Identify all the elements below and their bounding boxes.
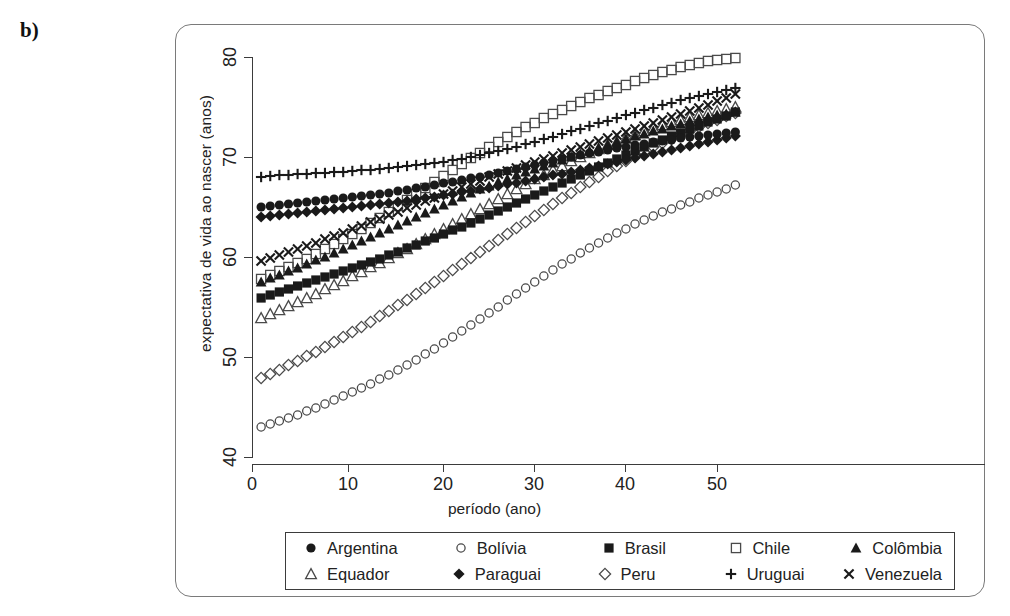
plot-area <box>252 32 985 464</box>
legend-label: Venezuela <box>865 565 942 584</box>
y-tick-label-50: 50 <box>220 347 240 367</box>
cross-icon <box>838 566 860 582</box>
x-tick-label-30: 30 <box>514 474 554 495</box>
y-tick-50 <box>244 357 252 358</box>
x-tick-30 <box>534 464 535 472</box>
legend-label: Equador <box>327 565 389 584</box>
y-tick-60 <box>244 257 252 258</box>
filled-circle-icon <box>300 540 322 556</box>
filled-diamond-icon <box>448 566 470 582</box>
x-tick-50 <box>717 464 718 472</box>
legend-entry-uruguai: Uruguai <box>720 565 838 584</box>
legend-label: Bolívia <box>477 539 527 558</box>
y-tick-80 <box>244 57 252 58</box>
y-tick-40 <box>244 457 252 458</box>
legend-label: Brasil <box>625 539 666 558</box>
legend-entry-brasil: Brasil <box>598 539 726 558</box>
x-tick-label-0: 0 <box>232 474 272 495</box>
series-bolívia <box>257 181 739 431</box>
legend-entry-argentina: Argentina <box>300 539 450 558</box>
open-triangle-icon <box>300 566 322 582</box>
open-square-icon <box>725 540 747 556</box>
open-circle-icon <box>450 540 472 556</box>
y-axis-title: expectativa de vida ao nascer (anos) <box>197 95 219 352</box>
legend-label: Argentina <box>327 539 398 558</box>
y-tick-label-80: 80 <box>220 47 240 67</box>
y-tick-label-70: 70 <box>220 147 240 167</box>
x-tick-10 <box>348 464 349 472</box>
x-tick-20 <box>443 464 444 472</box>
x-tick-label-50: 50 <box>697 474 737 495</box>
y-tick-70 <box>244 157 252 158</box>
x-tick-40 <box>625 464 626 472</box>
legend-entry-chile: Chile <box>725 539 845 558</box>
y-tick-label-60: 60 <box>220 247 240 267</box>
filled-triangle-icon <box>845 540 867 556</box>
legend-row-1: ArgentinaBolíviaBrasilChileColômbia <box>300 535 942 561</box>
legend-label: Chile <box>752 539 790 558</box>
x-axis-title: período (ano) <box>448 500 541 518</box>
legend-entry-venezuela: Venezuela <box>838 565 942 584</box>
x-tick-label-20: 20 <box>423 474 463 495</box>
legend-label: Colômbia <box>872 539 942 558</box>
legend-entry-bolvia: Bolívia <box>450 539 598 558</box>
series-argentina <box>257 127 740 211</box>
legend-row-2: EquadorParaguaiPeruUruguaiVenezuela <box>300 561 942 587</box>
legend-label: Paraguai <box>475 565 541 584</box>
x-tick-0 <box>252 464 253 472</box>
open-diamond-icon <box>594 566 616 582</box>
legend-entry-colmbia: Colômbia <box>845 539 942 558</box>
plus-icon <box>720 566 742 582</box>
filled-square-icon <box>598 540 620 556</box>
x-tick-label-10: 10 <box>328 474 368 495</box>
x-tick-label-40: 40 <box>605 474 645 495</box>
scatter-plot-svg <box>252 32 985 464</box>
legend-label: Uruguai <box>747 565 805 584</box>
y-tick-label-40: 40 <box>220 447 240 467</box>
legend-entry-equador: Equador <box>300 565 448 584</box>
legend-box: ArgentinaBolíviaBrasilChileColômbia Equa… <box>285 532 955 590</box>
legend-entry-peru: Peru <box>594 565 720 584</box>
panel-label: b) <box>20 18 39 43</box>
x-axis-line <box>252 464 985 465</box>
legend-entry-paraguai: Paraguai <box>448 565 594 584</box>
legend-label: Peru <box>621 565 656 584</box>
series-brasil <box>257 107 740 302</box>
